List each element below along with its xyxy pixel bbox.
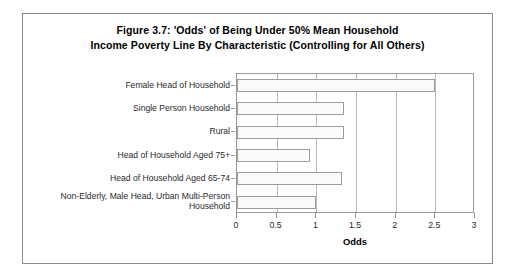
x-axis-tick: [395, 213, 396, 218]
category-label: Head of Household Aged 75+: [22, 150, 230, 160]
category-label-line: Rural: [22, 126, 230, 136]
category-label: Single Person Household: [22, 103, 230, 113]
x-axis-tick: [434, 213, 435, 218]
bar: [237, 126, 344, 139]
category-tick: [231, 131, 235, 132]
category-axis-labels: Female Head of HouseholdSingle Person Ho…: [23, 73, 234, 213]
bars-layer: [237, 74, 473, 212]
figure-container: Figure 3.7: 'Odds' of Being Under 50% Me…: [22, 13, 493, 264]
chart-title-line-1: Figure 3.7: 'Odds' of Being Under 50% Me…: [23, 23, 492, 38]
bar: [237, 196, 316, 209]
bar-row: [237, 167, 473, 190]
category-tick: [231, 155, 235, 156]
category-label: Head of Household Aged 65-74: [22, 173, 230, 183]
category-tick: [231, 201, 235, 202]
category-tick: [231, 85, 235, 86]
x-axis-tick-label: 1: [295, 220, 335, 230]
bar-row: [237, 97, 473, 120]
category-label-line: Female Head of Household: [22, 80, 230, 90]
bar-row: [237, 121, 473, 144]
category-label-line: Non-Elderly, Male Head, Urban Multi-Pers…: [22, 191, 230, 201]
category-label-line: Head of Household Aged 75+: [22, 150, 230, 160]
x-axis-tick: [236, 213, 237, 218]
bar: [237, 172, 342, 185]
chart-title: Figure 3.7: 'Odds' of Being Under 50% Me…: [23, 23, 492, 53]
category-label: Female Head of Household: [22, 80, 230, 90]
category-label: Non-Elderly, Male Head, Urban Multi-Pers…: [22, 191, 230, 211]
plot-area: [236, 73, 474, 213]
category-tick: [231, 178, 235, 179]
category-label-line: Head of Household Aged 65-74: [22, 173, 230, 183]
chart-title-line-2: Income Poverty Line By Characteristic (C…: [23, 38, 492, 53]
bar-row: [237, 191, 473, 214]
bar: [237, 79, 435, 92]
x-axis-tick: [276, 213, 277, 218]
x-axis-tick-label: 2: [375, 220, 415, 230]
x-axis-title: Odds: [236, 236, 474, 247]
x-axis-tick: [315, 213, 316, 218]
x-axis-tick-label: 0.5: [256, 220, 296, 230]
x-axis-tick: [474, 213, 475, 218]
category-label-line: Household: [22, 201, 230, 211]
x-axis-tick-label: 0: [216, 220, 256, 230]
x-axis-tick-label: 3: [454, 220, 494, 230]
x-axis-tick-label: 1.5: [335, 220, 375, 230]
category-label: Rural: [22, 126, 230, 136]
category-label-line: Single Person Household: [22, 103, 230, 113]
bar: [237, 102, 344, 115]
bar: [237, 149, 310, 162]
category-tick: [231, 108, 235, 109]
x-axis-tick-label: 2.5: [414, 220, 454, 230]
x-axis-tick: [355, 213, 356, 218]
bar-row: [237, 74, 473, 97]
bar-row: [237, 144, 473, 167]
